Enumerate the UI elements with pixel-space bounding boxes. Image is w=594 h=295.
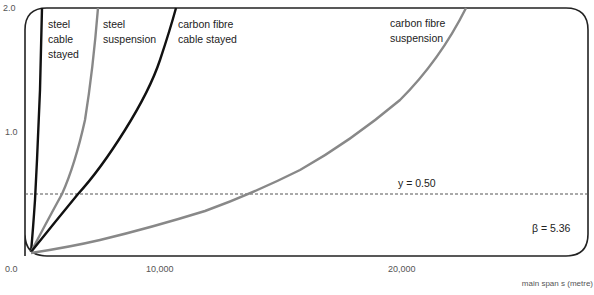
x-tick-20000: 20,000	[388, 264, 416, 274]
label-steel-cable-stayed-1: steel	[48, 18, 70, 30]
y-tick-1: 1.0	[5, 127, 18, 137]
y-tick-2: 2.0	[3, 3, 16, 13]
reference-line-label: y = 0.50	[398, 177, 436, 189]
label-carbon-cable-stayed-1: carbon fibre	[178, 18, 234, 30]
label-carbon-suspension-1: carbon fibre	[390, 17, 446, 29]
label-steel-suspension-2: suspension	[103, 33, 156, 45]
label-carbon-suspension-2: suspension	[390, 32, 443, 44]
plot-frame	[25, 8, 588, 256]
beta-annotation: β = 5.36	[532, 222, 571, 234]
x-axis-title: main span s (metre)	[522, 279, 593, 288]
curve-carbon-suspension	[31, 8, 466, 253]
label-steel-cable-stayed-2: cable	[48, 33, 73, 45]
label-steel-suspension-1: steel	[103, 18, 125, 30]
x-tick-10000: 10,000	[146, 264, 174, 274]
curve-steel-cable-stayed	[31, 8, 42, 252]
chart: 2.0 1.0 0.0 10,000 20,000 main span s (m…	[0, 0, 594, 295]
label-carbon-cable-stayed-2: cable stayed	[178, 33, 237, 45]
y-tick-0: 0.0	[5, 264, 18, 274]
label-steel-cable-stayed-3: stayed	[48, 48, 79, 60]
